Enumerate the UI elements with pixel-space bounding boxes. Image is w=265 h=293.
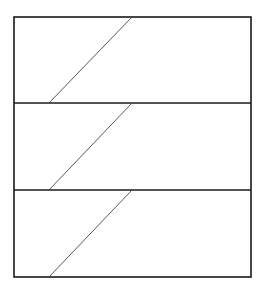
panel-diagonals [49,17,132,277]
three-panel-diagram [0,0,265,293]
diagonal-line-panel-3 [49,190,132,277]
outer-frame [14,17,251,277]
panel-dividers [14,103,251,190]
diagonal-line-panel-1 [49,17,132,103]
diagonal-line-panel-2 [49,103,132,190]
